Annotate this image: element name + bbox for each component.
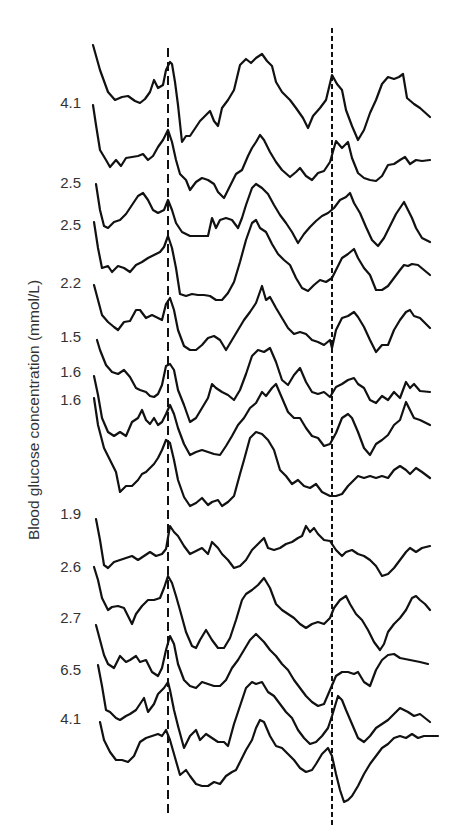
glucose-trace-12 (98, 665, 430, 748)
glucose-trace-chart: 4.12.52.52.21.51.61.61.92.62.76.54.1 Blo… (0, 0, 458, 837)
trace-value-label: 2.5 (60, 216, 81, 233)
trace-value-label: 2.5 (60, 174, 81, 191)
glucose-trace-7 (94, 376, 430, 455)
glucose-trace-9 (96, 519, 430, 576)
trace-value-label: 4.1 (60, 710, 81, 727)
trace-value-label: 4.1 (60, 94, 81, 111)
glucose-trace-5 (94, 285, 430, 352)
glucose-trace-2 (93, 105, 430, 198)
glucose-trace-1 (93, 45, 430, 142)
trace-value-label: 2.6 (60, 558, 81, 575)
reference-lines (168, 28, 332, 828)
glucose-trace-10 (94, 567, 430, 650)
trace-value-label: 6.5 (60, 661, 81, 678)
trace-value-label: 1.6 (60, 391, 81, 408)
glucose-trace-13 (100, 720, 438, 802)
trace-value-label: 1.5 (60, 328, 81, 345)
y-axis-label: Blood glucose concentration (mmol/L) (25, 280, 42, 540)
trace-value-label: 1.6 (60, 363, 81, 380)
glucose-traces (93, 45, 438, 802)
glucose-trace-11 (96, 625, 428, 706)
glucose-trace-6 (97, 340, 430, 422)
trace-value-label: 2.2 (60, 274, 81, 291)
trace-value-label: 2.7 (60, 609, 81, 626)
trace-value-labels: 4.12.52.52.21.51.61.61.92.62.76.54.1 (60, 94, 81, 727)
trace-value-label: 1.9 (60, 505, 81, 522)
glucose-trace-3 (96, 184, 430, 246)
